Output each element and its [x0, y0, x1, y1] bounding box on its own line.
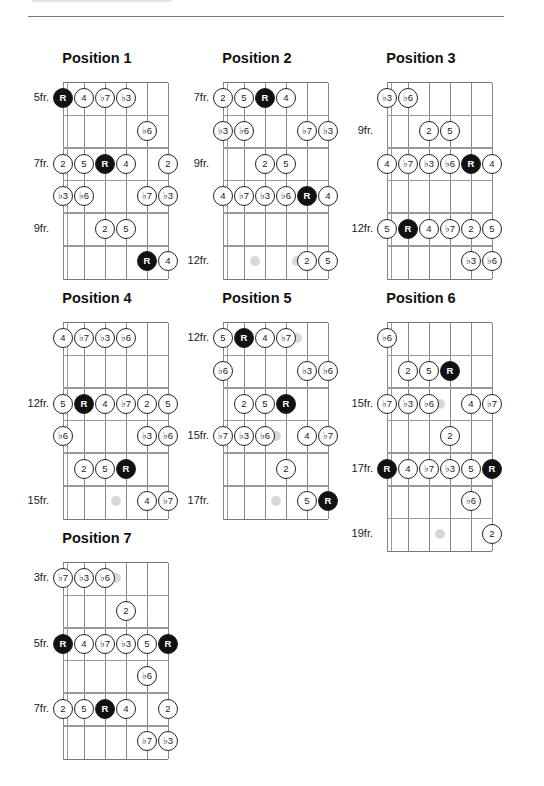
fret-line — [223, 212, 328, 214]
scale-note-dot: ♭3 — [419, 154, 439, 174]
diagram-title: Position 3 — [346, 50, 496, 66]
scale-note-dot: 4 — [116, 699, 136, 719]
scale-note-dot: 5 — [53, 394, 73, 414]
fret-inlay-marker — [250, 256, 260, 266]
scale-note-dot: ♭7 — [158, 491, 178, 511]
scale-note-dot: 5 — [158, 394, 178, 414]
scale-note-dot: 2 — [95, 219, 115, 239]
fret-line — [63, 420, 168, 422]
scale-note-dot: 2 — [276, 459, 296, 479]
fretboard — [63, 322, 168, 520]
scale-note-dot: 2 — [461, 219, 481, 239]
fret-line — [63, 355, 168, 357]
scale-note-dot: ♭3 — [255, 186, 275, 206]
scale-note-dot: 2 — [158, 154, 178, 174]
fret-line — [223, 245, 328, 247]
fret-line — [387, 147, 492, 149]
fret-line — [63, 147, 168, 149]
fret-line — [387, 212, 492, 214]
scale-note-dot: ♭3 — [137, 426, 157, 446]
root-note-dot: R — [398, 219, 418, 239]
scale-diagram-position-5: Position 512fr.15fr.17fr.5R4♭7♭6♭3♭625R♭… — [182, 290, 332, 528]
fret-number-label: 7fr. — [194, 91, 209, 103]
scale-note-dot: ♭3 — [398, 394, 418, 414]
string-line — [492, 323, 493, 551]
scale-note-dot: 4 — [318, 186, 338, 206]
fret-line — [387, 180, 492, 182]
fret-number-label: 5fr. — [34, 637, 49, 649]
fret-number-label: 12fr. — [352, 222, 373, 234]
fret-line — [223, 387, 328, 389]
scale-note-dot: ♭7 — [482, 394, 502, 414]
scale-diagram-position-1: Position 15fr.7fr.9fr.R4♭7♭3♭625R42♭3♭6♭… — [22, 50, 172, 288]
scale-diagram-position-2: Position 27fr.9fr.12fr.25R4♭3♭6♭7♭3254♭7… — [182, 50, 332, 288]
fret-line — [63, 627, 168, 629]
scale-note-dot: 4 — [213, 186, 233, 206]
fret-line — [63, 452, 168, 454]
fret-line — [63, 245, 168, 247]
diagram-title: Position 1 — [22, 50, 172, 66]
fret-number-label: 3fr. — [34, 571, 49, 583]
root-note-dot: R — [297, 186, 317, 206]
scale-note-dot: ♭3 — [318, 121, 338, 141]
fretboard — [223, 322, 328, 520]
root-note-dot: R — [95, 699, 115, 719]
scale-note-dot: 4 — [74, 634, 94, 654]
scale-note-dot: ♭6 — [440, 154, 460, 174]
scale-note-dot: ♭6 — [213, 361, 233, 381]
scale-note-dot: 2 — [255, 154, 275, 174]
scale-note-dot: ♭3 — [297, 361, 317, 381]
scale-note-dot: 2 — [398, 361, 418, 381]
fret-number-label: 9fr. — [358, 124, 373, 136]
root-note-dot: R — [318, 491, 338, 511]
scale-note-dot: 5 — [116, 219, 136, 239]
fret-line — [63, 115, 168, 117]
fret-number-label: 7fr. — [34, 702, 49, 714]
string-line — [168, 83, 169, 279]
string-line — [168, 563, 169, 759]
scale-note-dot: 5 — [461, 459, 481, 479]
fret-line — [223, 355, 328, 357]
fret-line — [223, 452, 328, 454]
fret-line — [387, 245, 492, 247]
scale-note-dot: ♭7 — [297, 121, 317, 141]
scale-note-dot: ♭3 — [116, 634, 136, 654]
scale-note-dot: ♭6 — [74, 186, 94, 206]
scale-note-dot: ♭6 — [137, 121, 157, 141]
scale-note-dot: ♭3 — [158, 731, 178, 751]
scale-note-dot: ♭3 — [440, 459, 460, 479]
fretboard — [63, 82, 168, 280]
scale-note-dot: ♭7 — [398, 154, 418, 174]
scale-note-dot: ♭7 — [440, 219, 460, 239]
fretboard — [223, 82, 328, 280]
fret-line — [63, 212, 168, 214]
fret-line — [223, 147, 328, 149]
root-note-dot: R — [74, 394, 94, 414]
fret-line — [223, 420, 328, 422]
scale-note-dot: 4 — [297, 426, 317, 446]
scale-note-dot: 5 — [255, 394, 275, 414]
fretboard — [63, 562, 168, 760]
fret-number-label: 12fr. — [28, 397, 49, 409]
fret-inlay-marker — [435, 529, 445, 539]
root-note-dot: R — [440, 361, 460, 381]
fret-number-label: 12fr. — [188, 254, 209, 266]
scale-note-dot: 2 — [158, 699, 178, 719]
scale-note-dot: ♭6 — [482, 251, 502, 271]
scale-note-dot: 2 — [74, 459, 94, 479]
fret-line — [387, 115, 492, 117]
fret-line — [63, 692, 168, 694]
scale-note-dot: 5 — [440, 121, 460, 141]
scale-note-dot: 5 — [419, 361, 439, 381]
diagram-title: Position 7 — [22, 530, 172, 546]
scale-note-dot: 4 — [95, 394, 115, 414]
string-line — [328, 83, 329, 279]
scale-note-dot: ♭7 — [377, 394, 397, 414]
fret-number-label: 15fr. — [188, 429, 209, 441]
scale-note-dot: 2 — [116, 601, 136, 621]
scale-note-dot: ♭7 — [116, 394, 136, 414]
header-rule — [28, 16, 504, 17]
fret-number-label: 15fr. — [28, 494, 49, 506]
scale-note-dot: ♭6 — [234, 121, 254, 141]
scale-note-dot: ♭6 — [137, 666, 157, 686]
